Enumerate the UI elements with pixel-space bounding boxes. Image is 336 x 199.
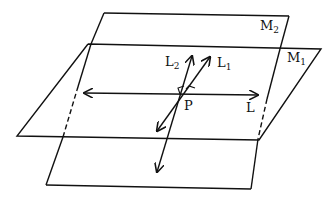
label-m1: M1 [287, 50, 306, 67]
label-m2: M2 [260, 18, 279, 35]
label-l: L [246, 100, 255, 115]
planes-diagram: M2 M1 L2 L1 L P [0, 0, 336, 199]
line-l2 [157, 56, 192, 172]
label-l1: L1 [217, 55, 231, 72]
label-p: P [184, 98, 193, 113]
line-l [84, 93, 258, 95]
label-l2: L2 [165, 54, 179, 71]
